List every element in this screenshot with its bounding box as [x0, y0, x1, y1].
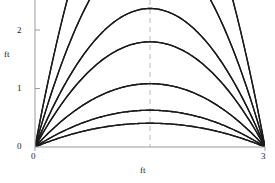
y-axis-title: ft [4, 50, 10, 59]
x-tick-label-3: 3 [261, 152, 266, 161]
y-tick-label-0: 0 [17, 142, 22, 151]
y-tick-label-2: 2 [17, 26, 22, 35]
projectile-trajectory-figure: 2 1 0 0 3 ft ft [0, 0, 275, 183]
plot-area [0, 0, 275, 183]
x-axis-title: ft [140, 166, 146, 175]
y-tick-label-1: 1 [17, 84, 22, 93]
x-tick-label-0: 0 [31, 152, 36, 161]
